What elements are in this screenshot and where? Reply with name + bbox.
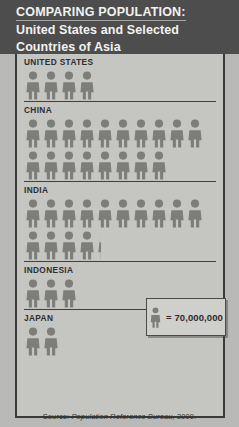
person-pictogram-icon <box>149 307 162 328</box>
person-pictogram-icon <box>78 231 96 260</box>
person-pictogram-icon <box>24 231 42 260</box>
person-pictogram-icon <box>60 119 78 148</box>
person-pictogram-icon <box>114 199 132 228</box>
person-pictogram-icon <box>186 119 204 148</box>
person-pictogram-icon <box>132 199 150 228</box>
right-margin <box>225 54 239 427</box>
person-pictogram-icon <box>42 327 60 356</box>
country-section-china: CHINA <box>17 102 223 180</box>
chart-panel: UNITED STATESCHINAINDIAINDONESIAJAPAN <box>15 54 225 418</box>
person-pictogram-icon <box>96 151 114 180</box>
person-pictogram-icon <box>60 71 78 100</box>
person-pictogram-icon <box>114 151 132 180</box>
person-pictogram-icon <box>96 199 114 228</box>
country-label: INDONESIA <box>24 262 207 277</box>
pictogram-row <box>24 229 223 260</box>
legend-value-label: = 70,000,000 <box>166 312 223 323</box>
pictogram-row <box>24 149 223 180</box>
person-pictogram-icon <box>42 151 60 180</box>
person-pictogram-icon <box>114 119 132 148</box>
person-pictogram-icon <box>168 199 186 228</box>
person-pictogram-icon <box>168 119 186 148</box>
person-pictogram-icon <box>78 151 96 180</box>
country-section-united-states: UNITED STATES <box>17 54 223 100</box>
person-pictogram-icon <box>150 199 168 228</box>
person-pictogram-icon <box>78 71 96 100</box>
person-pictogram-icon <box>42 199 60 228</box>
country-section-india: INDIA <box>17 182 223 260</box>
person-pictogram-icon <box>96 119 114 148</box>
person-pictogram-icon <box>132 119 150 148</box>
person-pictogram-icon <box>60 199 78 228</box>
source-publisher: Population Reference Bureau, <box>71 412 174 421</box>
person-pictogram-icon <box>42 231 60 260</box>
person-pictogram-icon <box>78 119 96 148</box>
page-subtitle-line1: United States and Selected <box>16 23 228 38</box>
person-pictogram-icon <box>24 199 42 228</box>
country-label: UNITED STATES <box>24 54 207 69</box>
person-pictogram-icon <box>24 327 42 356</box>
country-label: CHINA <box>24 102 207 117</box>
person-pictogram-icon <box>150 151 168 180</box>
person-pictogram-icon <box>132 151 150 180</box>
source-year: 2000. <box>177 412 196 421</box>
pictogram-row <box>24 69 223 100</box>
person-pictogram-icon <box>186 199 204 228</box>
person-pictogram-icon <box>24 151 42 180</box>
infographic-page: COMPARING POPULATION: United States and … <box>0 0 239 427</box>
pictogram-row <box>24 197 223 228</box>
person-pictogram-icon <box>60 231 78 260</box>
header-inner: COMPARING POPULATION: United States and … <box>16 2 228 55</box>
person-pictogram-icon <box>42 71 60 100</box>
legend-box: = 70,000,000 <box>146 298 226 336</box>
person-pictogram-icon-partial <box>96 231 101 260</box>
person-pictogram-icon <box>78 199 96 228</box>
person-pictogram-icon <box>150 119 168 148</box>
person-pictogram-icon <box>42 119 60 148</box>
left-margin <box>0 54 15 427</box>
person-pictogram-icon <box>60 279 78 308</box>
source-note: Source: Population Reference Bureau, 200… <box>0 412 239 421</box>
header-banner: COMPARING POPULATION: United States and … <box>0 0 239 54</box>
person-pictogram-icon <box>24 119 42 148</box>
person-pictogram-icon <box>42 279 60 308</box>
pictogram-row <box>24 117 223 148</box>
source-prefix: Source: <box>43 412 70 421</box>
person-pictogram-icon <box>60 151 78 180</box>
person-pictogram-icon <box>24 71 42 100</box>
country-label: INDIA <box>24 182 207 197</box>
page-subtitle-line2: Countries of Asia <box>16 40 228 55</box>
page-title: COMPARING POPULATION: <box>16 5 186 21</box>
person-pictogram-icon <box>24 279 42 308</box>
